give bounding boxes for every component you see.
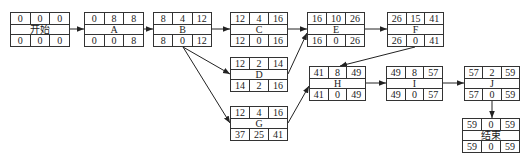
node-j-es: 57 [465, 67, 482, 78]
node-start-label: 开始 [30, 24, 50, 35]
node-i-lf: 57 [423, 89, 442, 100]
node-a: 088 A 008 [84, 12, 144, 47]
node-e-ls: 16 [308, 35, 326, 46]
node-b-dur: 4 [172, 13, 191, 24]
node-j-ls: 57 [465, 89, 482, 100]
node-start-ls: 0 [11, 35, 30, 46]
node-d-es: 12 [231, 58, 249, 69]
node-g-dur: 4 [249, 107, 268, 118]
node-end-ef: 59 [500, 119, 519, 130]
node-start-dur: 0 [30, 13, 50, 24]
node-h-dur: 8 [328, 67, 347, 78]
node-e-dur: 10 [326, 13, 345, 24]
node-b-label: B [179, 24, 186, 35]
node-g-label: G [255, 118, 262, 129]
node-end-lf: 59 [500, 141, 519, 152]
node-i-ls: 49 [387, 89, 405, 100]
node-j-label: J [490, 78, 494, 89]
node-c-lf: 16 [268, 35, 287, 46]
node-j-lf: 59 [501, 89, 519, 100]
node-e: 161026 E 16026 [307, 12, 365, 47]
node-i-label: I [413, 78, 416, 89]
node-d-ls: 14 [231, 80, 249, 91]
node-j-dur: 2 [482, 67, 500, 78]
node-b-ef: 12 [192, 13, 211, 24]
node-end-es: 59 [463, 119, 481, 130]
node-c: 12416 C 12016 [230, 12, 288, 47]
node-f-label: F [413, 24, 419, 35]
node-c-ef: 16 [268, 13, 287, 24]
edge-b-d [183, 47, 230, 74]
node-a-label: A [110, 24, 117, 35]
node-d-lf: 16 [268, 80, 287, 91]
node-e-lf: 26 [345, 35, 364, 46]
node-start-lf: 0 [49, 35, 69, 46]
node-a-lf: 8 [123, 35, 143, 46]
node-h: 41849 H 41049 [309, 66, 366, 101]
node-h-label: H [334, 78, 341, 89]
node-b: 8412 B 8012 [153, 12, 212, 47]
node-h-es: 41 [310, 67, 328, 78]
node-end-tf: 0 [481, 141, 500, 152]
node-b-tf: 0 [172, 35, 191, 46]
node-h-ls: 41 [310, 89, 328, 100]
node-start-tf: 0 [30, 35, 50, 46]
node-e-es: 16 [308, 13, 326, 24]
node-b-ls: 8 [154, 35, 172, 46]
node-i-tf: 0 [405, 89, 424, 100]
node-f-es: 26 [388, 13, 406, 24]
node-a-ef: 8 [123, 13, 143, 24]
node-i-es: 49 [387, 67, 405, 78]
node-g: 12416 G 372541 [230, 106, 288, 141]
node-g-tf: 25 [249, 129, 268, 140]
node-h-ef: 49 [346, 67, 365, 78]
node-a-tf: 0 [104, 35, 124, 46]
node-d-ef: 14 [268, 58, 287, 69]
node-h-tf: 0 [328, 89, 347, 100]
node-f: 261541 F 26041 [387, 12, 444, 47]
edge-b-g [183, 47, 230, 123]
node-e-tf: 0 [326, 35, 345, 46]
node-e-ef: 26 [345, 13, 364, 24]
node-start-ef: 0 [49, 13, 69, 24]
node-c-tf: 0 [249, 35, 268, 46]
node-end-label: 结束 [481, 130, 501, 141]
node-j: 57259 J 57059 [464, 66, 520, 101]
node-j-tf: 0 [482, 89, 500, 100]
node-f-ls: 26 [388, 35, 406, 46]
node-h-lf: 49 [346, 89, 365, 100]
node-g-lf: 41 [268, 129, 287, 140]
node-d-tf: 2 [249, 80, 268, 91]
node-start-es: 0 [11, 13, 30, 24]
node-g-ef: 16 [268, 107, 287, 118]
node-c-es: 12 [231, 13, 249, 24]
node-g-es: 12 [231, 107, 249, 118]
edge-d-e [288, 33, 307, 74]
node-d-dur: 2 [249, 58, 268, 69]
node-e-label: E [333, 24, 339, 35]
node-f-ef: 41 [424, 13, 443, 24]
node-f-dur: 15 [406, 13, 425, 24]
node-b-es: 8 [154, 13, 172, 24]
node-c-label: C [256, 24, 263, 35]
node-f-lf: 41 [424, 35, 443, 46]
node-a-dur: 8 [104, 13, 124, 24]
node-end: 59059 结束 59059 [462, 118, 520, 153]
node-d-label: D [255, 69, 262, 80]
node-b-lf: 12 [192, 35, 211, 46]
node-i-dur: 8 [405, 67, 424, 78]
node-start: 000 开始 000 [10, 12, 70, 47]
node-end-ls: 59 [463, 141, 481, 152]
node-i-ef: 57 [423, 67, 442, 78]
node-c-dur: 4 [249, 13, 268, 24]
node-i: 49857 I 49057 [386, 66, 443, 101]
edge-g-h [288, 86, 309, 123]
node-f-tf: 0 [406, 35, 425, 46]
node-c-ls: 12 [231, 35, 249, 46]
node-j-ef: 59 [501, 67, 519, 78]
node-end-dur: 0 [481, 119, 500, 130]
node-d: 12214 D 14216 [230, 57, 288, 92]
edge-f-h [340, 47, 415, 66]
node-g-ls: 37 [231, 129, 249, 140]
node-a-es: 0 [85, 13, 104, 24]
